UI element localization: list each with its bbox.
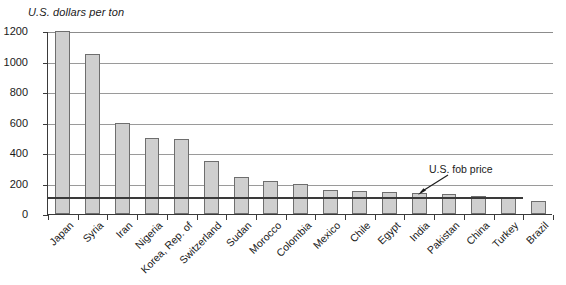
- x-axis-label: Syria: [80, 219, 105, 244]
- x-axis-label-wrapper: Japan: [67, 219, 75, 227]
- x-axis-label: Turkey: [490, 219, 521, 250]
- x-axis-label-wrapper: Turkey: [512, 219, 520, 227]
- x-axis-label: Mexico: [311, 219, 343, 251]
- y-tick-mark: [43, 93, 48, 94]
- y-tick-label: 200: [0, 178, 28, 190]
- y-axis-title: U.S. dollars per ton: [28, 6, 124, 18]
- x-axis-label: Chile: [347, 219, 372, 244]
- annotation-arrow-icon: [414, 174, 450, 198]
- x-axis-label: Pakistan: [425, 219, 462, 256]
- gridline: [48, 32, 553, 33]
- reference-line-us-fob-price: [48, 197, 523, 199]
- bar-chart-figure: U.S. dollars per ton 0200400600800100012…: [0, 0, 566, 285]
- x-axis-label-wrapper: Egypt: [394, 219, 402, 227]
- x-axis-label-wrapper: Iran: [126, 219, 134, 227]
- x-axis-label-wrapper: Colombia: [305, 219, 313, 227]
- x-axis-label: India: [407, 219, 432, 244]
- y-tick-label: 0: [0, 208, 28, 220]
- y-tick-label: 400: [0, 147, 28, 159]
- bar: [55, 31, 70, 214]
- gridline: [48, 93, 553, 94]
- y-tick-mark: [43, 154, 48, 155]
- x-axis-label-wrapper: Morocco: [275, 219, 283, 227]
- x-tick-mark: [553, 215, 554, 220]
- x-axis-label-wrapper: Syria: [97, 219, 105, 227]
- x-axis-label-wrapper: Pakistan: [453, 219, 461, 227]
- x-axis-label-wrapper: Mexico: [334, 219, 342, 227]
- x-axis-label: China: [463, 219, 491, 247]
- y-tick-label: 600: [0, 117, 28, 129]
- y-tick-mark: [43, 63, 48, 64]
- y-tick-mark: [43, 185, 48, 186]
- gridline: [48, 63, 553, 64]
- x-axis-label: Japan: [47, 219, 76, 248]
- x-axis-label-wrapper: China: [483, 219, 491, 227]
- x-axis-label-wrapper: Brazil: [542, 219, 550, 227]
- bar: [145, 138, 160, 214]
- y-tick-label: 1000: [0, 56, 28, 68]
- bar: [382, 192, 397, 214]
- plot-area: 020040060080010001200: [47, 32, 552, 215]
- x-axis-label-wrapper: Korea, Rep. of: [186, 219, 194, 227]
- x-axis-labels: JapanSyriaIranNigeriaKorea, Rep. ofSwitz…: [47, 219, 552, 285]
- bar: [352, 191, 367, 214]
- bar: [531, 201, 546, 214]
- x-axis-label-wrapper: Nigeria: [156, 219, 164, 227]
- bar: [501, 197, 516, 214]
- x-axis-label-wrapper: Switzerland: [215, 219, 223, 227]
- bar: [234, 177, 249, 214]
- y-tick-mark: [43, 124, 48, 125]
- y-tick-label: 1200: [0, 25, 28, 37]
- y-tick-mark: [43, 32, 48, 33]
- x-axis-label-wrapper: Chile: [364, 219, 372, 227]
- bar: [115, 123, 130, 215]
- bar: [204, 161, 219, 214]
- bar: [323, 190, 338, 214]
- x-axis-label-wrapper: India: [423, 219, 431, 227]
- x-axis-label-wrapper: Sudan: [245, 219, 253, 227]
- bar: [174, 139, 189, 214]
- x-axis-label: Egypt: [375, 219, 402, 246]
- x-axis-label: Iran: [113, 219, 134, 240]
- bar: [85, 54, 100, 214]
- y-tick-label: 800: [0, 86, 28, 98]
- x-axis-label: Brazil: [524, 219, 551, 246]
